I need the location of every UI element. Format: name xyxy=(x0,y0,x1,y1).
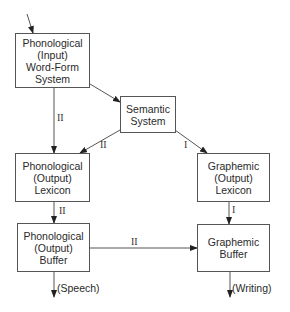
node-text: Phonological xyxy=(22,37,82,49)
node-text: (Output) xyxy=(34,242,73,254)
node-text: System xyxy=(130,115,165,127)
node-text: Word-Form xyxy=(26,61,79,73)
node-text: System xyxy=(35,73,70,85)
node-text: (Input) xyxy=(37,49,67,61)
edge-semantic-to-graph-lexicon xyxy=(175,130,207,153)
edge-label-semantic-to-graph-lexicon: I xyxy=(184,139,187,150)
node-text: (Output) xyxy=(214,172,253,184)
node-text: Buffer xyxy=(40,254,68,266)
node-text: Lexicon xyxy=(34,184,70,196)
edge-label-phon-buffer-to-graph-buffer: II xyxy=(131,236,138,247)
node-text: Graphemic xyxy=(208,236,259,248)
node-semantic-system: Semantic System xyxy=(120,96,176,133)
node-text: Buffer xyxy=(220,248,248,260)
node-text: Semantic xyxy=(126,103,170,115)
node-phonological-input-word-form-system: Phonological (Input) Word-Form System xyxy=(15,33,90,88)
edge-label-semantic-to-phon-lexicon: II xyxy=(100,139,107,150)
edge-input-to-semantic xyxy=(90,84,120,102)
node-text: Phonological xyxy=(23,230,83,242)
node-text: Graphemic xyxy=(208,160,259,172)
output-label-speech: (Speech) xyxy=(57,282,100,294)
edge-label-input-to-phon-lexicon: II xyxy=(57,112,64,123)
output-label-writing: (Writing) xyxy=(232,282,271,294)
edge-label-graph-lexicon-to-graph-buffer: I xyxy=(232,204,235,215)
edge-label-phon-lexicon-to-phon-buffer: II xyxy=(59,205,66,216)
node-phonological-output-buffer: Phonological (Output) Buffer xyxy=(17,223,90,272)
node-phonological-output-lexicon: Phonological (Output) Lexicon xyxy=(15,153,90,202)
node-text: (Output) xyxy=(33,172,72,184)
node-graphemic-output-lexicon: Graphemic (Output) Lexicon xyxy=(197,153,270,202)
input-arrow xyxy=(27,14,33,33)
node-text: Phonological xyxy=(22,160,82,172)
node-graphemic-buffer: Graphemic Buffer xyxy=(197,224,270,272)
node-text: Lexicon xyxy=(215,184,251,196)
